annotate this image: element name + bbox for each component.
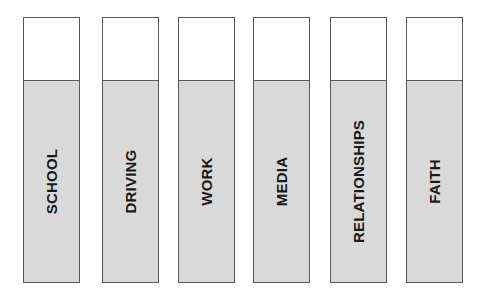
bar-empty-segment: [254, 18, 309, 81]
bar-filled-segment: DRIVING: [103, 81, 158, 282]
bar-label: DRIVING: [123, 150, 138, 214]
bar-filled-segment: RELATIONSHIPS: [331, 81, 386, 282]
bar-filled-segment: WORK: [179, 81, 234, 282]
bar-empty-segment: [103, 18, 158, 81]
bar-filled-segment: SCHOOL: [24, 81, 79, 282]
bar-media[interactable]: MEDIA: [253, 17, 310, 283]
bar-chart: SCHOOL DRIVING WORK MEDIA RELATIONSHIPS …: [0, 0, 484, 306]
bar-label: MEDIA: [274, 157, 289, 206]
bar-work[interactable]: WORK: [178, 17, 235, 283]
bar-label: FAITH: [427, 159, 442, 203]
bar-label: WORK: [199, 157, 214, 205]
bar-label: RELATIONSHIPS: [351, 120, 366, 243]
bar-filled-segment: MEDIA: [254, 81, 309, 282]
bar-driving[interactable]: DRIVING: [102, 17, 159, 283]
bar-empty-segment: [407, 18, 462, 81]
bar-filled-segment: FAITH: [407, 81, 462, 282]
bar-faith[interactable]: FAITH: [406, 17, 463, 283]
bar-empty-segment: [179, 18, 234, 81]
bar-empty-segment: [24, 18, 79, 81]
bar-empty-segment: [331, 18, 386, 81]
bar-label: SCHOOL: [44, 149, 59, 214]
bar-school[interactable]: SCHOOL: [23, 17, 80, 283]
bar-relationships[interactable]: RELATIONSHIPS: [330, 17, 387, 283]
